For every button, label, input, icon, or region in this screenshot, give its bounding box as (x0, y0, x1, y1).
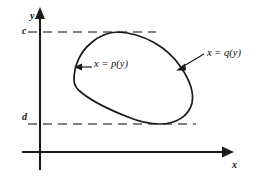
upper-bound-label: c (22, 26, 26, 36)
right-boundary-label: x = q(y) (207, 48, 241, 59)
lower-bound-label: d (22, 112, 27, 122)
x-axis-label: x (232, 160, 237, 170)
right-label-leader-line (182, 54, 204, 67)
diagram-canvas (0, 0, 263, 184)
arrow-down-left-icon (176, 63, 186, 70)
axis-arrow-up-icon (35, 7, 45, 19)
figure-region-between-curves: y x c d x = p(y) x = q(y) (0, 0, 263, 184)
axis-arrow-right-icon (222, 147, 234, 158)
left-boundary-label: x = p(y) (94, 59, 128, 70)
y-axis-label: y (30, 11, 34, 21)
region-boundary-curve (74, 32, 193, 124)
